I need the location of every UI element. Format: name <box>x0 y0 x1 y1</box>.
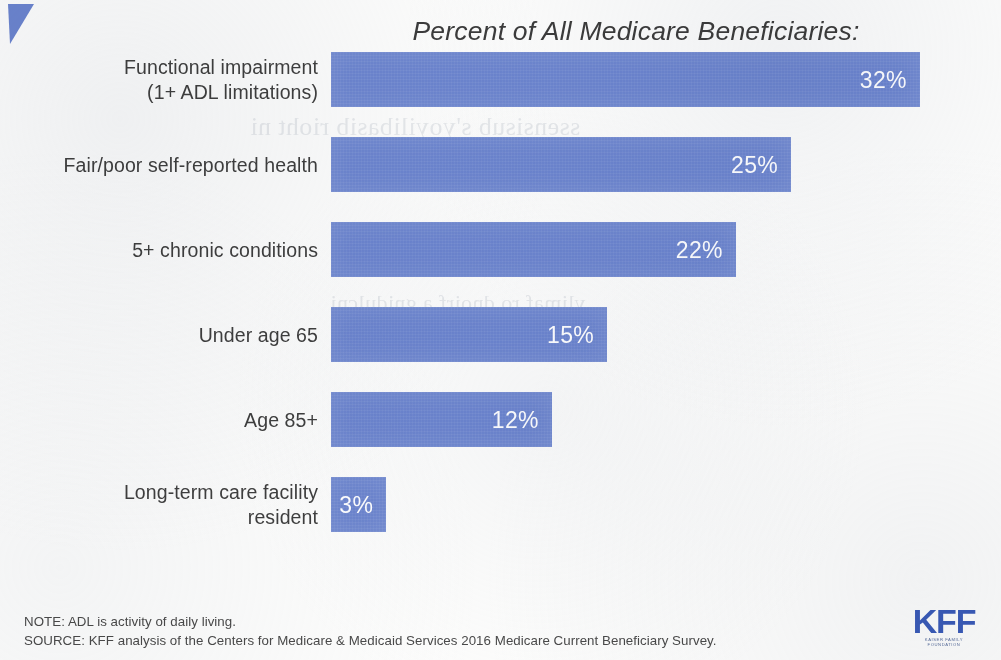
footer: NOTE: ADL is activity of daily living. S… <box>24 612 864 650</box>
bar-row: Fair/poor self-reported health25% <box>0 137 1001 192</box>
category-label-line-2: resident <box>30 505 318 530</box>
kff-wordmark: KFF <box>901 605 987 637</box>
bar: 12% <box>331 392 552 447</box>
bar-row: Age 85+12% <box>0 392 1001 447</box>
bar: 15% <box>331 307 607 362</box>
bar-row: Under age 6515% <box>0 307 1001 362</box>
footer-note: NOTE: ADL is activity of daily living. <box>24 612 864 631</box>
bar: 32% <box>331 52 920 107</box>
bar: 3% <box>331 477 386 532</box>
category-label: Long-term care facilityresident <box>30 480 318 530</box>
bar: 22% <box>331 222 736 277</box>
bar-row: 5+ chronic conditions22% <box>0 222 1001 277</box>
chart-title: Percent of All Medicare Beneficiaries: <box>331 16 941 47</box>
category-label-line-1: Functional impairment <box>124 56 318 78</box>
bar-value-label: 22% <box>676 236 723 263</box>
chart-slide: ssensisub s'yoyilibasib rioht ni ylimaf … <box>0 0 1001 660</box>
category-label-line-1: Fair/poor self-reported health <box>64 153 318 175</box>
bar-value-label: 32% <box>860 66 907 93</box>
category-label-line-1: Age 85+ <box>244 408 318 430</box>
category-label-line-2: (1+ ADL limitations) <box>30 80 318 105</box>
bar-value-label: 15% <box>547 321 594 348</box>
bar-value-label: 25% <box>731 151 778 178</box>
category-label-line-1: 5+ chronic conditions <box>132 238 318 260</box>
bar-row: Long-term care facilityresident3% <box>0 477 1001 532</box>
category-label: Functional impairment(1+ ADL limitations… <box>30 55 318 105</box>
category-label-line-1: Long-term care facility <box>124 481 318 503</box>
bar-chart-plot-area: Functional impairment(1+ ADL limitations… <box>0 52 1001 567</box>
bar: 25% <box>331 137 791 192</box>
category-label: Age 85+ <box>30 407 318 432</box>
bar-row: Functional impairment(1+ ADL limitations… <box>0 52 1001 107</box>
category-label: 5+ chronic conditions <box>30 237 318 262</box>
bar-value-label: 12% <box>492 406 539 433</box>
footer-source: SOURCE: KFF analysis of the Centers for … <box>24 631 864 650</box>
kff-logo: KFF KAISER FAMILY FOUNDATION <box>901 605 987 648</box>
category-label: Fair/poor self-reported health <box>30 152 318 177</box>
category-label-line-1: Under age 65 <box>199 323 318 345</box>
category-label: Under age 65 <box>30 322 318 347</box>
corner-flag-icon <box>8 4 34 44</box>
kff-logo-subline-2: FOUNDATION <box>901 642 987 648</box>
bar-value-label: 3% <box>339 491 373 518</box>
